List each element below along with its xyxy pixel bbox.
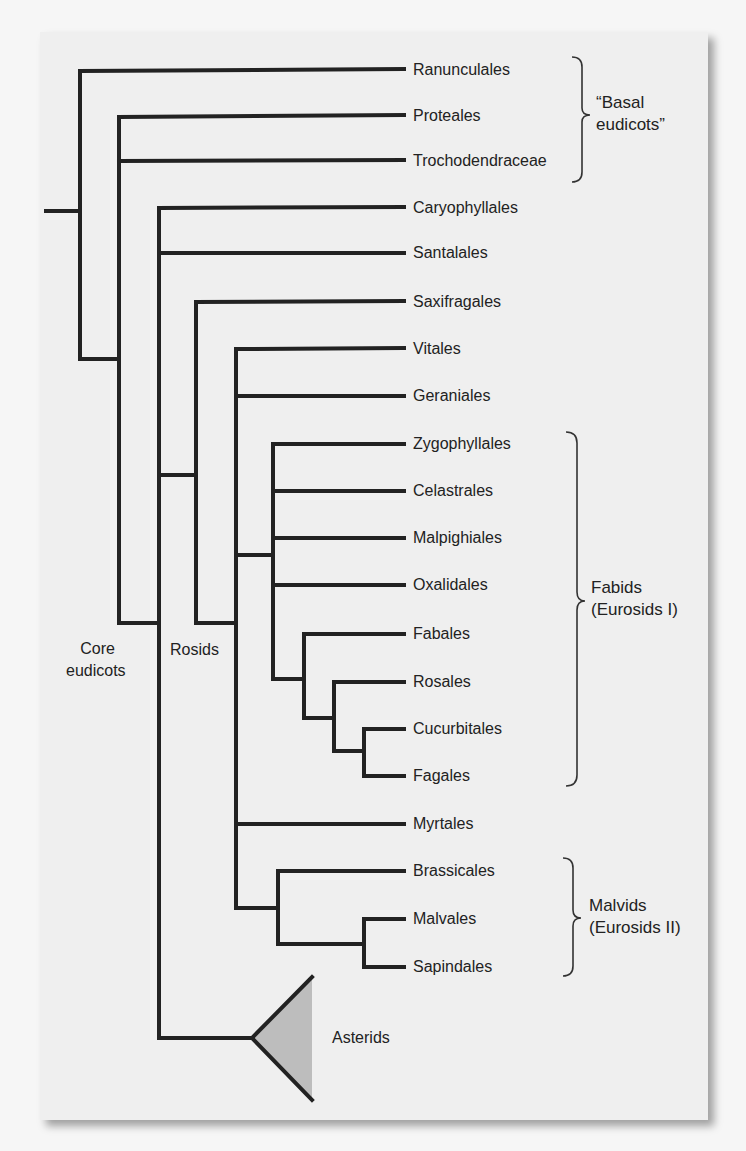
node-label-core-eudicots: Core [72,638,115,660]
taxon-label-malpighiales: Malpighiales [413,529,502,547]
taxon-label-malvales: Malvales [413,910,476,928]
taxon-label-geraniales: Geraniales [413,387,490,405]
taxon-label-vitales: Vitales [413,340,461,358]
taxon-label-asterids: Asterids [332,1029,390,1047]
taxon-label-fagales: Fagales [413,767,470,785]
taxon-label-trochodendraceae: Trochodendraceae [413,152,547,170]
fabids-brace [566,432,585,786]
group-label-fabids: Fabids (Eurosids I) [591,577,678,621]
node-label-rosids: Rosids [170,639,219,661]
group-label-malvids: Malvids (Eurosids II) [589,895,681,939]
taxon-label-saxifragales: Saxifragales [413,293,501,311]
group-label-line1: Fabids [591,577,678,599]
taxon-label-proteales: Proteales [413,107,481,125]
group-label-basal-eudicots: “Basal eudicots” [596,92,665,136]
branch-zygophyllales [273,444,404,679]
taxon-label-rosales: Rosales [413,673,471,691]
group-label-line2: (Eurosids II) [589,917,681,939]
branch-brassicales [278,871,404,944]
group-label-line1: Malvids [589,895,681,917]
taxon-label-fabales: Fabales [413,625,470,643]
taxon-label-santalales: Santalales [413,244,488,262]
taxon-label-myrtales: Myrtales [413,815,473,833]
taxon-label-cucurbitales: Cucurbitales [413,720,502,738]
taxon-label-caryophyllales: Caryophyllales [413,199,518,217]
taxon-label-brassicales: Brassicales [413,862,495,880]
branch-fabales [304,634,404,718]
taxon-label-celastrales: Celastrales [413,482,493,500]
branch-proteales [119,115,404,623]
basal-eudicots-brace [572,57,590,182]
taxon-label-sapindales: Sapindales [413,958,492,976]
group-label-line1: “Basal [596,92,665,114]
branch-cucurbitales [364,729,404,776]
phylogenetic-tree [0,0,746,1151]
malvids-brace [563,858,581,976]
node-label-line1: Core [72,638,115,660]
taxon-label-ranunculales: Ranunculales [413,61,510,79]
taxon-label-zygophyllales: Zygophyllales [413,435,511,453]
taxon-label-oxalidales: Oxalidales [413,576,488,594]
group-label-line2: (Eurosids I) [591,599,678,621]
asterids-triangle [252,977,312,1100]
branch-rosales [334,682,404,751]
branch-malvales [364,919,404,967]
node-label-core-eudicots-2: eudicots [66,660,126,682]
branch-trochodendraceae [119,160,404,161]
group-label-line2: eudicots” [596,114,665,136]
branch-ranunculales [80,69,404,359]
